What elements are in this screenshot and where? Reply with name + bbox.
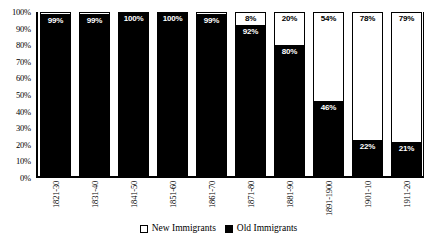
bar-segment-old-immigrants: 100% <box>118 12 149 176</box>
x-axis-tick-label: 1861-70 <box>207 181 216 208</box>
bar-value-label-new: 54% <box>321 15 336 23</box>
bar-value-label-new: 78% <box>360 15 375 23</box>
chart-legend: New Immigrants Old Immigrants <box>0 224 437 234</box>
bar-segment-new-immigrants: 20% <box>274 12 305 45</box>
bar-1891-1900: 54%46% <box>313 12 344 176</box>
y-axis-tick: 50% <box>16 91 31 100</box>
bar-segment-new-immigrants: 54% <box>313 12 344 101</box>
x-axis-tick-1871-80: 1871-80 <box>235 180 266 226</box>
y-axis-tick: 60% <box>16 74 31 83</box>
black-square-icon <box>225 225 233 233</box>
bar-segment-old-immigrants: 80% <box>274 45 305 176</box>
y-axis-tick: 100% <box>12 8 31 17</box>
bar-value-label-old: 100% <box>163 15 183 23</box>
x-axis-tick-1891-1900: 1891-1900 <box>313 180 344 226</box>
bar-value-label-old: 22% <box>360 143 375 151</box>
bar-segment-new-immigrants: 8% <box>235 12 266 25</box>
x-axis-tick-1881-90: 1881-90 <box>274 180 305 226</box>
bar-1861-70: 99% <box>196 12 227 176</box>
x-axis-tick-label: 1881-90 <box>285 181 294 208</box>
bar-1851-60: 100% <box>157 12 188 176</box>
x-axis-tick-label: 1871-80 <box>246 181 255 208</box>
x-axis-tick-label: 1831-40 <box>90 181 99 208</box>
x-axis-tick-label: 1841-50 <box>129 181 138 208</box>
x-axis-tick-1911-20: 1911-20 <box>391 180 422 226</box>
x-axis-tick-label: 1891-1900 <box>324 181 333 216</box>
legend-label-new-immigrants: New Immigrants <box>152 224 216 234</box>
bar-value-label-old: 99% <box>48 17 63 25</box>
bar-value-label-old: 100% <box>124 15 144 23</box>
legend-item-new-immigrants: New Immigrants <box>140 224 216 234</box>
bar-segment-new-immigrants: 78% <box>352 12 383 140</box>
bar-segment-old-immigrants: 46% <box>313 101 344 176</box>
bar-segment-old-immigrants: 99% <box>79 14 110 176</box>
bar-segment-old-immigrants: 99% <box>40 14 71 176</box>
bar-1901-10: 78%22% <box>352 12 383 176</box>
y-axis-tick-labels: 0%10%20%30%40%50%60%70%80%90%100% <box>0 12 34 178</box>
x-axis-tick-1831-40: 1831-40 <box>79 180 110 226</box>
bar-1911-20: 79%21% <box>391 12 422 176</box>
x-axis-tick-1841-50: 1841-50 <box>118 180 149 226</box>
bar-segment-new-immigrants: 79% <box>391 12 422 142</box>
x-axis-tick-label: 1911-20 <box>402 181 411 208</box>
y-axis-tick: 90% <box>16 24 31 33</box>
bar-value-label-old: 21% <box>399 145 414 153</box>
bar-segment-old-immigrants: 100% <box>157 12 188 176</box>
white-square-icon <box>140 225 148 233</box>
y-axis-tick: 40% <box>16 107 31 116</box>
chart-figure: 0%10%20%30%40%50%60%70%80%90%100% 99%99%… <box>0 0 437 240</box>
y-axis-tick: 10% <box>16 157 31 166</box>
bar-segment-old-immigrants: 21% <box>391 142 422 176</box>
bar-value-label-old: 80% <box>282 48 297 56</box>
bar-value-label-new: 8% <box>245 15 256 23</box>
bar-1881-90: 20%80% <box>274 12 305 176</box>
bar-segment-old-immigrants: 22% <box>352 140 383 176</box>
bar-series-group: 99%99%100%100%99%8%92%20%80%54%46%78%22%… <box>38 12 424 176</box>
x-axis-tick-1901-10: 1901-10 <box>352 180 383 226</box>
bar-value-label-old: 99% <box>204 17 219 25</box>
legend-item-old-immigrants: Old Immigrants <box>225 224 297 234</box>
bar-value-label-new: 20% <box>282 15 297 23</box>
x-axis-tick-1861-70: 1861-70 <box>196 180 227 226</box>
y-axis-tick: 70% <box>16 58 31 67</box>
y-axis-tick: 20% <box>16 141 31 150</box>
x-axis-tick-labels: 1821-301831-401841-501851-601861-701871-… <box>38 180 424 226</box>
bar-value-label-old: 99% <box>87 17 102 25</box>
bar-value-label-old: 92% <box>243 28 258 36</box>
legend-label-old-immigrants: Old Immigrants <box>237 224 297 234</box>
bar-1871-80: 8%92% <box>235 12 266 176</box>
y-axis-tick: 0% <box>20 174 31 183</box>
bar-segment-old-immigrants: 92% <box>235 25 266 176</box>
x-axis-tick-label: 1901-10 <box>363 181 372 208</box>
y-axis-tick: 30% <box>16 124 31 133</box>
bar-value-label-old: 46% <box>321 104 336 112</box>
bar-segment-old-immigrants: 99% <box>196 14 227 176</box>
bar-1841-50: 100% <box>118 12 149 176</box>
x-axis-tick-1821-30: 1821-30 <box>40 180 71 226</box>
x-axis-tick-label: 1851-60 <box>168 181 177 208</box>
x-axis-tick-1851-60: 1851-60 <box>157 180 188 226</box>
bar-1831-40: 99% <box>79 12 110 176</box>
y-axis-tick: 80% <box>16 41 31 50</box>
bar-1821-30: 99% <box>40 12 71 176</box>
bar-value-label-new: 79% <box>399 15 414 23</box>
x-axis-tick-label: 1821-30 <box>51 181 60 208</box>
